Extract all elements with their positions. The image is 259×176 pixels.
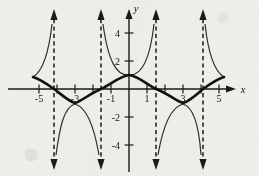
x-tick-label-pos3: 3: [181, 93, 186, 104]
graph-figure: -5 -3 -1 1 3 5 4 2 -2 -4 x y: [0, 0, 259, 176]
x-tick-label-neg5: -5: [35, 93, 43, 104]
x-tick-label-pos1: 1: [145, 93, 150, 104]
y-tick-label-pos2: 2: [115, 56, 120, 67]
x-axis-label: x: [240, 84, 246, 95]
y-tick-label-neg4: -4: [112, 140, 120, 151]
x-tick-label-neg1: -1: [107, 93, 115, 104]
y-tick-label-neg2: -2: [112, 112, 120, 123]
y-axis-label: y: [133, 3, 139, 14]
x-tick-label-pos5: 5: [217, 93, 222, 104]
x-tick-label-neg3: -3: [71, 93, 79, 104]
y-tick-label-pos4: 4: [115, 28, 120, 39]
tick-labels-group: -5 -3 -1 1 3 5 4 2 -2 -4 x y: [35, 3, 246, 151]
graph-svg: -5 -3 -1 1 3 5 4 2 -2 -4 x y: [0, 0, 259, 176]
y-axis-arrowhead: [125, 9, 132, 19]
x-axis-arrowhead: [226, 85, 236, 92]
